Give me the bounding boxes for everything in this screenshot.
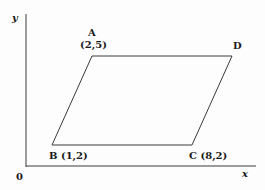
vertex-d-name: D: [233, 40, 242, 51]
x-axis-label: x: [241, 168, 249, 179]
vertex-c-label: C (8,2): [189, 150, 227, 162]
parallelogram-diagram: y x 0 A (2,5) D B (1,2) C (8,2): [0, 0, 265, 190]
diagram-canvas: y x 0 A (2,5) D B (1,2) C (8,2): [0, 0, 265, 190]
origin-label: 0: [16, 171, 23, 182]
vertex-a-name: A: [87, 27, 96, 38]
y-axis-label: y: [11, 12, 19, 23]
vertex-b-label: B (1,2): [49, 150, 88, 162]
parallelogram-abcd: [52, 56, 232, 145]
vertex-a-coords: (2,5): [80, 39, 107, 51]
